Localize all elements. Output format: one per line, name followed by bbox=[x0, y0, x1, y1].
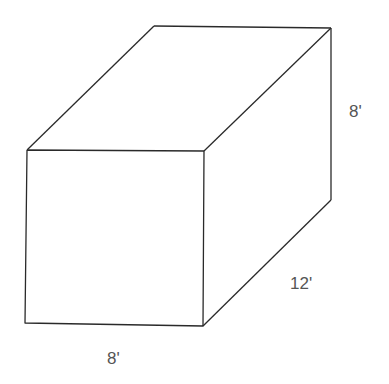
height-label: 8' bbox=[349, 102, 362, 121]
prism bbox=[25, 26, 331, 326]
width-label: 8' bbox=[107, 349, 120, 368]
depth-label: 12' bbox=[290, 274, 312, 293]
front-face bbox=[25, 150, 204, 326]
box-diagram: 8' 12' 8' bbox=[0, 0, 389, 384]
